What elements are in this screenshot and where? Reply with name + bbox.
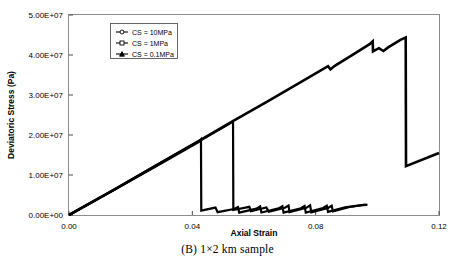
y-axis-title: Deviatoric Stress (Pa): [6, 71, 16, 159]
y-tick-label: 2.00E+07: [29, 131, 64, 140]
y-tick-label: 5.00E+07: [29, 11, 64, 20]
deviatoric-stress-vs-axial-strain-chart: 0.00E+001.00E+072.00E+073.00E+074.00E+07…: [0, 0, 455, 238]
legend-label-0: CS = 10MPa: [132, 29, 172, 36]
y-tick-label: 4.00E+07: [29, 51, 64, 60]
x-tick-label: 0.00: [61, 222, 77, 231]
legend-label-1: CS = 1MPa: [132, 40, 168, 47]
series-line-cs-10mpa: [69, 37, 439, 215]
y-axis-tickmarks: [69, 15, 73, 215]
chart-legend[interactable]: CS = 10MPaCS = 1MPaCS = 0.1MPa: [111, 24, 178, 59]
x-tick-label: 0.04: [185, 222, 201, 231]
legend-marker-circle-icon: [120, 30, 124, 34]
chart-plot-area: 0.00E+001.00E+072.00E+073.00E+074.00E+07…: [0, 0, 455, 238]
x-axis-tickmarks: [69, 211, 439, 215]
legend-label-2: CS = 0.1MPa: [132, 51, 174, 58]
y-tick-label: 3.00E+07: [29, 91, 64, 100]
y-tick-label: 1.00E+07: [29, 171, 64, 180]
y-axis-tick-labels: 0.00E+001.00E+072.00E+073.00E+074.00E+07…: [29, 11, 64, 220]
series-line-cs-1mpa: [69, 121, 367, 215]
y-tick-label: 0.00E+00: [29, 211, 64, 220]
series-line-cs-0-1mpa: [69, 139, 367, 215]
figure-container: 0.00E+001.00E+072.00E+073.00E+074.00E+07…: [0, 0, 455, 272]
data-series-group: [69, 37, 439, 215]
x-tick-label: 0.12: [431, 222, 447, 231]
legend-marker-square-icon: [120, 41, 124, 45]
x-tick-label: 0.08: [308, 222, 324, 231]
x-axis-title: Axial Strain: [231, 228, 278, 238]
figure-caption: (B) 1×2 km sample: [0, 243, 455, 255]
